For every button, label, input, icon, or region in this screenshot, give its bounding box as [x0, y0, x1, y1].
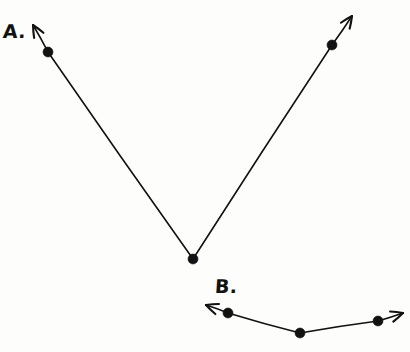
figure-drawing — [0, 0, 410, 352]
path-node-dot — [327, 40, 337, 50]
arrow-barb — [390, 312, 403, 313]
path-segment — [193, 45, 332, 259]
path-series-a — [33, 16, 352, 264]
path-node-dot — [188, 254, 198, 264]
path-segment — [48, 52, 193, 259]
path-series-b — [206, 304, 403, 338]
arrow-barb — [206, 304, 219, 305]
arrow-barb — [33, 25, 34, 38]
figure-canvas: A. B. — [0, 0, 410, 352]
path-b-label: B. — [214, 277, 238, 296]
path-node-dot — [43, 47, 53, 57]
path-segment — [228, 313, 300, 333]
path-node-dot — [223, 308, 233, 318]
path-node-dot — [373, 316, 383, 326]
path-segment — [300, 321, 378, 333]
path-a-label: A. — [2, 22, 27, 41]
path-node-dot — [295, 328, 305, 338]
